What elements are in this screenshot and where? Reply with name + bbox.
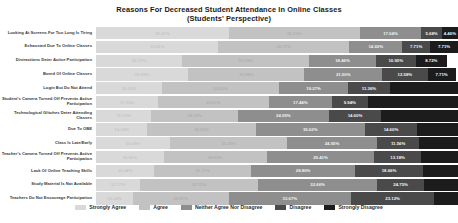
stacked-bar: 36.61%36.21%17.04%5.68%4.46% [96,27,458,39]
bar-segment: 15.15% [96,110,151,122]
category-label: Student's Camera Turned Off Prevents Act… [0,96,96,108]
stacked-bar: 23.77%35.10%18.46%10.95%8.72% [96,55,458,67]
bar-segment [417,123,458,135]
chart-container: Reasons For Decreased Student Attendance… [0,0,458,223]
bar-segment: 8.72% [416,55,448,67]
stacked-bar: 16.04%26.77%28.80%18.66% [96,165,458,177]
stacked-bar: 18.66%28.65%29.41%13.18% [96,151,458,163]
bar-segment: 18.66% [355,165,423,177]
chart-row: Class Is Late/Early20.49%32.23%24.95%11.… [0,137,458,149]
legend-swatch-icon [275,205,286,210]
chart-row: Bored Of Online Classes25.49%32.04%21.50… [0,68,458,80]
bar-segment: 7.71% [430,41,458,53]
bar-segment: 28.65% [164,151,268,163]
bar-segment: 24.14% [151,110,238,122]
category-label: Teacher's Camera Turned Off Prevents Act… [0,151,96,163]
bar-segment: 23.77% [96,55,182,67]
stacked-bar: 25.49%32.04%21.50%12.58%7.71% [96,68,458,80]
bar-segment: 30.02% [147,123,256,135]
legend-label: Agree [153,204,168,210]
bar-segment [421,151,458,163]
legend-item[interactable]: Disagree [275,204,311,210]
bar-segment: 16.04% [96,165,154,177]
chart-row: Distractions Deter Active Participation2… [0,55,458,67]
bar-segment: 21.50% [304,68,382,80]
bar-segment [419,137,458,149]
bar-segment: 18.22% [96,82,162,94]
legend-item[interactable]: Agree [139,204,168,210]
bar-segment: 9.94% [332,96,368,108]
category-label: Lack Of Online Teaching Skills [0,165,96,177]
bar-segment: 36.21% [229,27,360,39]
bar-segment: 11.36% [348,82,389,94]
legend-label: Strongly Disagree [338,204,382,210]
bar-segment: 18.66% [96,151,164,163]
chart-row: Due To OBE14.14%30.02%30.02%14.60% [0,123,458,135]
plot-area: Looking At Screens For Too Long Is Tirin… [0,27,458,193]
stacked-bar: 12.17%32.72%32.66%24.75% [96,179,458,191]
category-label: Bored Of Online Classes [0,68,96,80]
bar-segment: 36.61% [96,27,229,39]
bar-segment: 5.68% [421,27,442,39]
bar-segment: 32.66% [258,179,376,191]
bar-segment [390,82,458,94]
bar-segment: 17.11% [96,96,158,108]
bar-segment: 36.17% [218,41,349,53]
chart-row: Teacher's Camera Turned Off Prevents Act… [0,151,458,163]
bar-segment: 12.58% [382,68,428,80]
category-label: Technological Glitches Deter Attending C… [0,110,96,122]
bar-segment: 11.56% [377,137,419,149]
stacked-bar: 14.14%30.02%30.02%14.60% [96,123,458,135]
bar-segment: 17.04% [360,27,422,39]
bar-segment: 30.02% [256,123,365,135]
bar-segment: 24.75% [377,179,425,191]
bar-segment: 24.95% [238,110,328,122]
bar-segment: 14.60% [349,41,402,53]
bar-segment: 28.80% [251,165,355,177]
category-label: Study Material Is Not Available [0,179,96,191]
bar-segment: 24.95% [287,137,377,149]
legend-label: Strongly Agree [89,204,126,210]
bar-segment: 25.49% [96,68,188,80]
bar-segment [368,96,458,108]
legend-swatch-icon [75,205,86,210]
category-label: Class Is Late/Early [0,137,96,149]
chart-row: Looking At Screens For Too Long Is Tirin… [0,27,458,39]
chart-legend: Strongly AgreeAgreeNeither Agree Nor Dis… [0,197,458,217]
legend-item[interactable]: Strongly Disagree [324,204,382,210]
bar-segment: 7.71% [428,68,456,80]
bar-segment: 30.61% [158,96,269,108]
category-label: Exhausted Due To Online Classes [0,41,96,53]
stacked-bar: 15.15%24.14%24.95%14.60% [96,110,458,122]
legend-swatch-icon [139,205,150,210]
category-label: Login But Do Not Attend [0,82,96,94]
chart-row: Exhausted Due To Online Classes33.81%36.… [0,41,458,53]
chart-row: Study Material Is Not Available12.17%32.… [0,179,458,191]
chart-row: Lack Of Online Teaching Skills16.04%26.7… [0,165,458,177]
chart-subtitle: (Students' Perspective) [0,14,458,23]
bar-segment: 10.95% [376,55,416,67]
legend-item[interactable]: Strongly Agree [75,204,126,210]
category-label: Looking At Screens For Too Long Is Tirin… [0,27,96,39]
bar-segment: 29.41% [267,151,373,163]
chart-row: Login But Do Not Attend18.22%32.25%19.27… [0,82,458,94]
bar-segment: 32.25% [162,82,279,94]
bar-segment: 35.10% [182,55,309,67]
bar-segment: 4.46% [442,27,458,39]
bar-segment [423,165,458,177]
stacked-bar: 18.22%32.25%19.27%11.36% [96,82,458,94]
bar-segment: 20.49% [96,137,170,149]
chart-title-block: Reasons For Decreased Student Attendance… [0,5,458,23]
category-label: Due To OBE [0,123,96,135]
bar-segment: 32.04% [188,68,304,80]
bar-segment: 19.27% [279,82,349,94]
bar-segment: 18.46% [309,55,376,67]
legend-label: Disagree [289,204,311,210]
page-title: Reasons For Decreased Student Attendance… [0,5,458,14]
bar-segment: 32.72% [140,179,258,191]
bar-segment: 33.81% [96,41,218,53]
category-label: Distractions Deter Active Participation [0,55,96,67]
legend-item[interactable]: Neither Agree Nor Disagree [181,204,263,210]
legend-label: Neither Agree Nor Disagree [195,204,263,210]
bar-segment: 14.60% [365,123,418,135]
